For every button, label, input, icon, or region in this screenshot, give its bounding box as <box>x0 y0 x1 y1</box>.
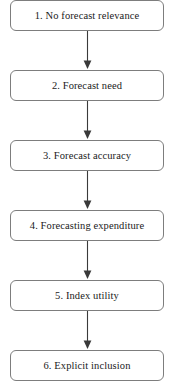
flowchart-node-label: 6. Explicit inclusion <box>43 360 130 372</box>
flowchart-node-1[interactable]: 1. No forecast relevance <box>10 0 164 31</box>
arrow-down-icon <box>82 31 93 70</box>
flowchart-node-wrapper: 1. No forecast relevance <box>0 0 174 31</box>
flowchart-node-wrapper: 6. Explicit inclusion <box>0 350 174 381</box>
flowchart-node-label: 2. Forecast need <box>52 80 122 92</box>
arrow-down-icon <box>82 311 93 350</box>
flowchart-connector-5 <box>0 311 174 350</box>
arrow-down-icon <box>82 241 93 280</box>
flowchart-node-label: 3. Forecast accuracy <box>43 150 131 162</box>
flowchart-node-3[interactable]: 3. Forecast accuracy <box>10 140 164 171</box>
flowchart-connector-4 <box>0 241 174 280</box>
flowchart-node-wrapper: 3. Forecast accuracy <box>0 140 174 171</box>
flowchart-sequence: 1. No forecast relevance 2. Forecast nee… <box>0 0 174 391</box>
flowchart-node-4[interactable]: 4. Forecasting expenditure <box>10 210 164 241</box>
flowchart-node-6[interactable]: 6. Explicit inclusion <box>10 350 164 381</box>
flowchart-canvas: 1. No forecast relevance 2. Forecast nee… <box>0 0 174 391</box>
flowchart-node-label: 1. No forecast relevance <box>35 10 140 22</box>
flowchart-node-label: 5. Index utility <box>55 290 119 302</box>
flowchart-node-label: 4. Forecasting expenditure <box>30 220 144 232</box>
flowchart-node-wrapper: 4. Forecasting expenditure <box>0 210 174 241</box>
flowchart-node-2[interactable]: 2. Forecast need <box>10 70 164 101</box>
flowchart-connector-2 <box>0 101 174 140</box>
flowchart-node-wrapper: 5. Index utility <box>0 280 174 311</box>
flowchart-connector-3 <box>0 171 174 210</box>
arrow-down-icon <box>82 171 93 210</box>
flowchart-node-5[interactable]: 5. Index utility <box>10 280 164 311</box>
arrow-down-icon <box>82 101 93 140</box>
flowchart-connector-1 <box>0 31 174 70</box>
flowchart-node-wrapper: 2. Forecast need <box>0 70 174 101</box>
